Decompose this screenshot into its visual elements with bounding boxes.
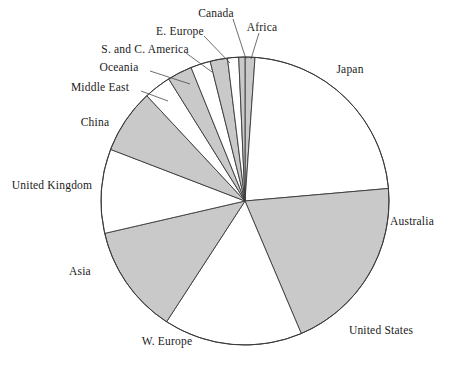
slice-label-united-kingdom: United Kingdom bbox=[12, 179, 92, 192]
slice-label-s-and-c-america: S. and C. America bbox=[101, 43, 188, 55]
slice-label-w-europe: W. Europe bbox=[142, 335, 193, 348]
pie-chart-container: CanadaAfricaE. EuropeS. and C. AmericaOc… bbox=[0, 0, 449, 365]
leader-line-africa bbox=[251, 33, 259, 59]
slice-label-canada: Canada bbox=[198, 7, 234, 19]
pie-chart-svg: CanadaAfricaE. EuropeS. and C. AmericaOc… bbox=[0, 0, 449, 365]
slice-label-china: China bbox=[81, 116, 109, 128]
leader-line-e-europe bbox=[204, 36, 230, 63]
slice-label-united-states: United States bbox=[349, 324, 414, 336]
slice-label-asia: Asia bbox=[69, 265, 91, 277]
slice-label-australia: Australia bbox=[390, 215, 434, 227]
slice-label-japan: Japan bbox=[336, 63, 363, 76]
slice-label-africa: Africa bbox=[247, 21, 278, 33]
pie-slices-group bbox=[101, 57, 389, 345]
slice-label-e-europe: E. Europe bbox=[156, 25, 204, 38]
slice-label-middle-east: Middle East bbox=[71, 81, 130, 93]
pie-slice-japan[interactable] bbox=[245, 57, 388, 201]
leader-line-canada bbox=[233, 19, 246, 59]
slice-label-oceania: Oceania bbox=[99, 61, 138, 73]
